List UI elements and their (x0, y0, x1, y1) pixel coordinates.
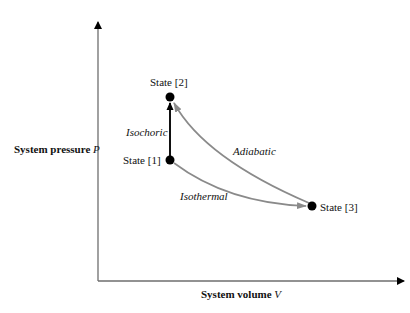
state-3-dot (308, 202, 317, 211)
state-3-label: State [3] (320, 201, 358, 213)
x-axis-label: System volume V (201, 288, 282, 300)
y-axis-label: System pressure P (14, 143, 100, 155)
x-axis-variable: V (274, 288, 282, 300)
state-2-label: State [2] (150, 76, 188, 88)
state-1-dot (166, 156, 175, 165)
state-2-dot (166, 93, 175, 102)
isothermal-label: Isothermal (179, 190, 228, 202)
isochoric-label: Isochoric (125, 126, 168, 138)
adiabatic-label: Adiabatic (232, 145, 276, 157)
state-1-label: State [1] (123, 154, 161, 166)
pv-diagram: System pressure P System volume V State … (0, 0, 410, 313)
y-axis-variable: P (92, 143, 100, 155)
